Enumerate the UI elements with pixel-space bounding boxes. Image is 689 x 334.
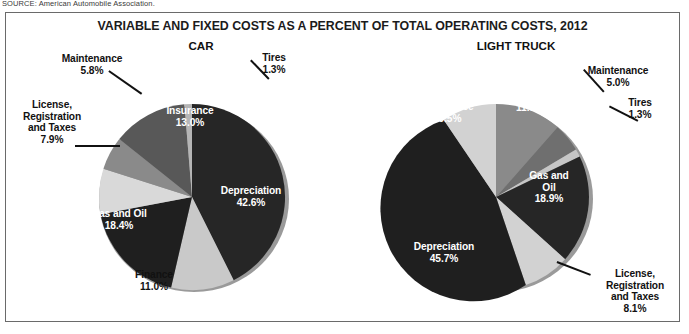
label-truck-gas-and-oil: Gas and Oil 18.9% (506, 170, 592, 205)
chart-frame: VARIABLE AND FIXED COSTS AS A PERCENT OF… (5, 12, 680, 322)
label-truck-insurance: Insurance 9.5% (406, 101, 494, 124)
label-truck-depreciation: Depreciation 45.7% (392, 241, 496, 264)
label-truck-finance: Finance 11.5% (490, 90, 570, 113)
pie-chart-truck (6, 13, 681, 323)
source-note: SOURCE: American Automobile Association. (2, 0, 155, 8)
label-truck-tires: Tires 1.3% (612, 97, 668, 120)
label-truck-maintenance: Maintenance 5.0% (566, 65, 670, 88)
label-truck-license: License, Registration and Taxes 8.1% (589, 268, 681, 314)
